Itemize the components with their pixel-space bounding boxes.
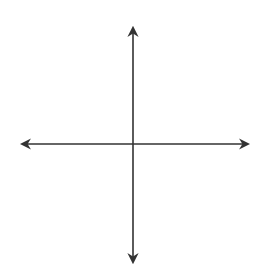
coordinate-plane <box>0 0 270 278</box>
